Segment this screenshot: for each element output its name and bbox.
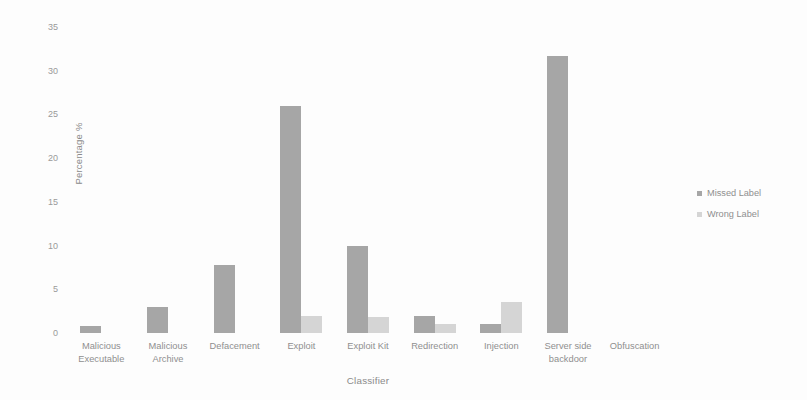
bar-wrong-label [301,316,322,333]
y-axis-tick-30: 30 [30,66,58,76]
bar-wrong-label [368,317,389,333]
bar-missed-label [414,316,435,333]
legend-item[interactable]: Wrong Label [697,209,805,219]
bar-wrong-label [501,302,522,333]
bar-missed-label [80,326,101,333]
bar-group [601,27,668,333]
legend-swatch-icon [697,191,702,196]
y-axis-tick-25: 25 [30,109,58,119]
chart-legend: Missed LabelWrong Label [697,188,805,230]
bar-group [335,27,402,333]
bar-group [401,27,468,333]
bar-group [135,27,202,333]
x-axis-tick-label: Malicious Archive [135,340,202,365]
bar-missed-label [147,307,168,333]
x-axis-tick-label: Exploit [268,340,335,353]
bar-group [468,27,535,333]
y-axis-tick-0: 0 [30,328,58,338]
x-axis-tick-label: Malicious Executable [68,340,135,365]
x-axis-tick-label: Injection [468,340,535,353]
y-axis-tick-15: 15 [30,197,58,207]
x-axis-tick-label: Defacement [201,340,268,353]
y-axis-tick-20: 20 [30,153,58,163]
y-axis-tick-5: 5 [30,284,58,294]
bar-group [535,27,602,333]
bar-missed-label [547,56,568,333]
legend-item-label: Wrong Label [707,209,759,219]
bar-group [201,27,268,333]
bar-missed-label [280,106,301,333]
bar-wrong-label [435,324,456,333]
legend-item-label: Missed Label [707,188,761,198]
bar-group [268,27,335,333]
bar-missed-label [480,324,501,333]
bar-missed-label [214,265,235,333]
x-axis-title: Classifier [0,375,736,386]
x-axis-tick-label: Exploit Kit [335,340,402,353]
y-axis-tick-35: 35 [30,22,58,32]
legend-swatch-icon [697,212,702,217]
legend-item[interactable]: Missed Label [697,188,805,198]
x-axis-tick-label: Redirection [401,340,468,353]
bar-chart: Percentage % 05101520253035 Malicious Ex… [0,0,807,400]
bar-missed-label [347,246,368,333]
x-axis-tick-label: Server side backdoor [535,340,602,365]
y-axis-tick-10: 10 [30,241,58,251]
plot-area [68,27,668,333]
bar-group [68,27,135,333]
x-axis-tick-label: Obfuscation [601,340,668,353]
